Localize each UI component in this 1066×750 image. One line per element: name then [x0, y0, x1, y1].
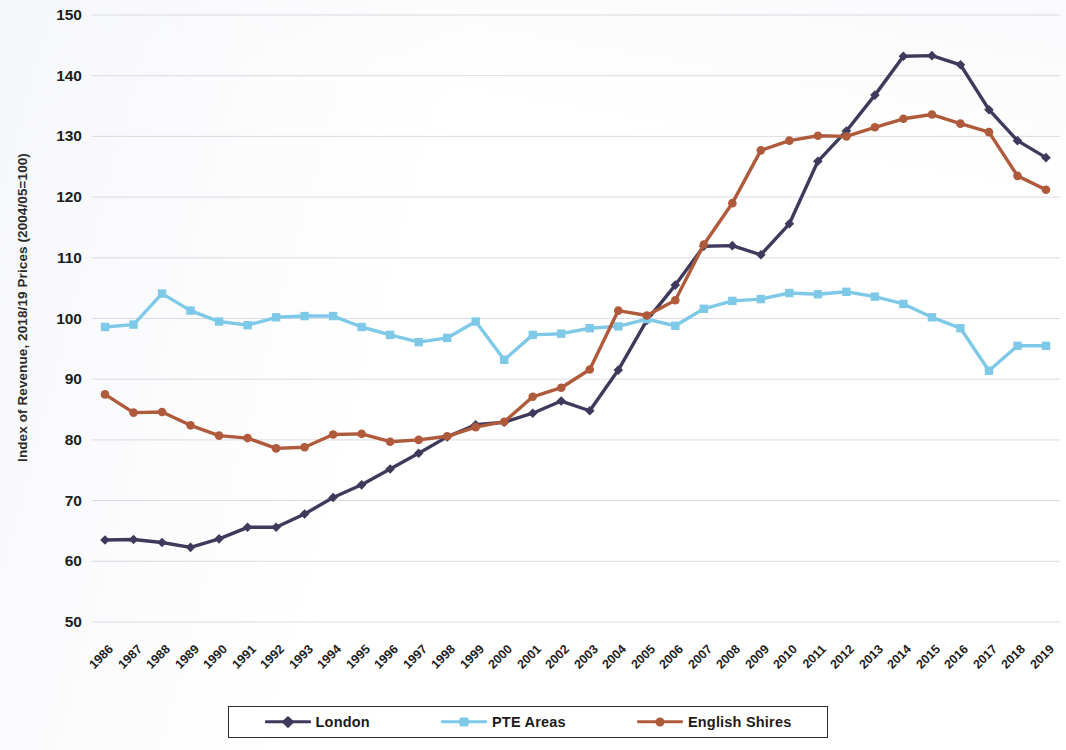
data-point	[243, 522, 253, 532]
data-point	[728, 199, 737, 208]
data-point	[1013, 172, 1022, 181]
data-point	[985, 367, 993, 375]
series-pte-areas	[101, 288, 1050, 375]
data-point	[842, 288, 850, 296]
y-tick-60: 60	[36, 552, 82, 570]
data-point	[842, 132, 851, 141]
data-point	[700, 305, 708, 313]
data-point	[443, 432, 452, 441]
data-point	[556, 396, 566, 406]
data-point	[471, 423, 480, 432]
data-point	[272, 444, 281, 453]
data-point	[101, 323, 109, 331]
data-point	[443, 334, 451, 342]
data-point	[814, 131, 823, 140]
data-point	[215, 317, 223, 325]
y-axis-tick-labels: 1501401301201101009080706050	[34, 0, 82, 750]
chart-legend: LondonPTE AreasEnglish Shires	[228, 706, 828, 738]
y-tick-70: 70	[36, 492, 82, 510]
data-point	[1042, 186, 1051, 195]
data-point	[272, 313, 280, 321]
series-london	[100, 51, 1051, 552]
legend-item-label: English Shires	[688, 714, 792, 730]
y-tick-120: 120	[36, 188, 82, 206]
y-tick-150: 150	[36, 6, 82, 24]
data-point	[357, 323, 365, 331]
data-point	[129, 320, 137, 328]
data-point	[614, 306, 623, 315]
data-point	[243, 321, 251, 329]
revenue-index-line-chart: Index of Revenue, 2018/19 Prices (2004/0…	[0, 0, 1066, 750]
legend-item-pte-areas[interactable]: PTE Areas	[441, 714, 566, 730]
y-tick-80: 80	[36, 431, 82, 449]
data-point	[785, 136, 794, 145]
legend-item-label: London	[316, 714, 370, 730]
data-point	[899, 300, 907, 308]
data-point	[186, 543, 196, 553]
legend-item-english-shires[interactable]: English Shires	[637, 714, 792, 730]
data-point	[243, 434, 252, 443]
data-point	[1013, 342, 1021, 350]
y-axis-title: Index of Revenue, 2018/19 Prices (2004/0…	[15, 98, 30, 518]
data-point	[414, 338, 422, 346]
data-point	[728, 297, 736, 305]
data-point	[956, 119, 965, 128]
data-point	[614, 322, 622, 330]
data-point	[357, 430, 366, 439]
data-point	[757, 295, 765, 303]
data-point	[671, 296, 680, 305]
data-point	[785, 289, 793, 297]
series-line	[105, 115, 1046, 449]
data-point	[215, 431, 224, 440]
data-point	[500, 356, 508, 364]
y-tick-90: 90	[36, 370, 82, 388]
data-point	[186, 306, 194, 314]
data-point	[414, 436, 423, 445]
y-tick-100: 100	[36, 310, 82, 328]
data-point	[871, 292, 879, 300]
data-point	[386, 331, 394, 339]
data-point	[329, 312, 337, 320]
data-point	[129, 535, 139, 545]
y-tick-110: 110	[36, 249, 82, 267]
y-tick-140: 140	[36, 67, 82, 85]
data-point	[871, 123, 880, 132]
y-tick-50: 50	[36, 613, 82, 631]
data-point	[928, 313, 936, 321]
data-point	[500, 417, 509, 426]
data-point	[557, 383, 566, 392]
data-point	[700, 240, 709, 249]
legend-item-london[interactable]: London	[265, 714, 370, 730]
data-point	[214, 534, 224, 544]
data-point	[101, 390, 110, 399]
y-tick-130: 130	[36, 127, 82, 145]
series-english-shires	[101, 110, 1051, 452]
data-point	[329, 430, 338, 439]
data-point	[642, 311, 651, 320]
data-point	[956, 324, 964, 332]
data-point	[928, 110, 937, 119]
legend-swatch-icon	[441, 715, 487, 729]
data-point	[927, 51, 937, 61]
data-point	[985, 128, 994, 137]
legend-swatch-icon	[265, 715, 311, 729]
data-point	[186, 421, 195, 430]
data-point	[100, 535, 110, 545]
plot-area	[0, 0, 1066, 750]
data-point	[157, 538, 167, 548]
legend-swatch-icon	[637, 715, 683, 729]
data-point	[585, 365, 594, 374]
data-point	[557, 329, 565, 337]
data-point	[300, 443, 309, 452]
data-point	[386, 437, 395, 446]
data-point	[728, 241, 738, 251]
data-point	[471, 317, 479, 325]
data-point	[586, 324, 594, 332]
data-point	[158, 289, 166, 297]
data-point	[899, 114, 908, 123]
data-point	[671, 322, 679, 330]
data-point	[1042, 342, 1050, 350]
data-point	[757, 146, 766, 155]
data-point	[528, 393, 537, 402]
data-point	[158, 408, 167, 417]
